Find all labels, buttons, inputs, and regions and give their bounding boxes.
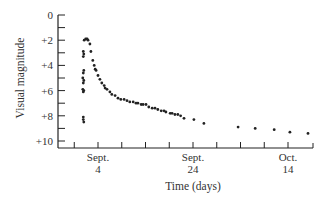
data-point bbox=[82, 69, 85, 72]
data-point bbox=[307, 132, 310, 135]
data-point bbox=[82, 72, 85, 75]
data-point bbox=[156, 108, 159, 111]
y-tick-label: +6 bbox=[41, 85, 53, 97]
data-point bbox=[99, 78, 102, 81]
data-point bbox=[289, 131, 292, 134]
data-point bbox=[87, 39, 90, 42]
data-point bbox=[119, 98, 122, 101]
data-point bbox=[93, 64, 96, 67]
y-axis-title: Visual magnitude bbox=[14, 38, 27, 119]
data-point bbox=[174, 113, 177, 116]
x-tick-label-day: 14 bbox=[283, 163, 295, 175]
data-point bbox=[132, 101, 135, 104]
data-point bbox=[81, 77, 84, 80]
data-point bbox=[117, 97, 120, 100]
data-point bbox=[123, 98, 126, 101]
data-point bbox=[193, 118, 196, 121]
data-points bbox=[81, 38, 309, 135]
x-tick-label-month: Oct. bbox=[279, 151, 298, 163]
x-tick-label-month: Sept. bbox=[87, 151, 110, 163]
data-point bbox=[106, 88, 109, 91]
data-point bbox=[81, 88, 84, 91]
data-point bbox=[176, 113, 179, 116]
data-point bbox=[171, 112, 174, 115]
data-point bbox=[142, 103, 145, 106]
data-point bbox=[254, 127, 257, 130]
data-point bbox=[90, 50, 93, 53]
x-tick-label-day: 4 bbox=[95, 163, 101, 175]
data-point bbox=[126, 99, 129, 102]
y-tick-label: +10 bbox=[36, 135, 54, 147]
data-point bbox=[95, 69, 98, 72]
data-point bbox=[100, 82, 103, 85]
y-tick-label: +2 bbox=[41, 34, 53, 46]
data-point bbox=[237, 126, 240, 129]
data-point bbox=[128, 101, 131, 104]
data-point bbox=[91, 59, 94, 62]
data-point bbox=[97, 74, 100, 77]
data-point bbox=[165, 111, 168, 114]
data-point bbox=[114, 94, 117, 97]
data-point bbox=[82, 118, 85, 121]
data-point bbox=[203, 122, 206, 125]
data-point bbox=[89, 43, 92, 46]
data-point bbox=[82, 50, 85, 53]
data-point bbox=[82, 53, 85, 56]
data-point bbox=[82, 55, 85, 58]
data-point bbox=[137, 102, 140, 105]
data-point bbox=[103, 84, 106, 87]
data-point bbox=[179, 114, 182, 117]
data-point bbox=[109, 91, 112, 94]
data-point bbox=[110, 93, 113, 96]
axes bbox=[58, 15, 313, 148]
data-point bbox=[82, 121, 85, 124]
data-point bbox=[151, 107, 154, 110]
data-point bbox=[183, 117, 186, 120]
data-point bbox=[273, 128, 276, 131]
y-tick-label: +8 bbox=[41, 110, 53, 122]
data-point bbox=[82, 82, 85, 85]
x-tick-label-month: Sept. bbox=[182, 151, 205, 163]
y-tick-label: +4 bbox=[41, 59, 53, 71]
data-point bbox=[82, 116, 85, 119]
data-point bbox=[145, 103, 148, 106]
x-tick-label-day: 24 bbox=[188, 163, 200, 175]
data-point bbox=[147, 106, 150, 109]
data-point bbox=[82, 79, 85, 82]
data-point bbox=[160, 109, 163, 112]
x-axis-title: Time (days) bbox=[165, 180, 221, 193]
axis-labels: 0+2+4+6+8+10Sept.4Sept.24Oct.14Time (day… bbox=[14, 9, 298, 193]
nova-light-curve-chart: 0+2+4+6+8+10Sept.4Sept.24Oct.14Time (day… bbox=[0, 0, 326, 204]
y-tick-label: 0 bbox=[48, 9, 54, 21]
data-point bbox=[154, 107, 157, 110]
